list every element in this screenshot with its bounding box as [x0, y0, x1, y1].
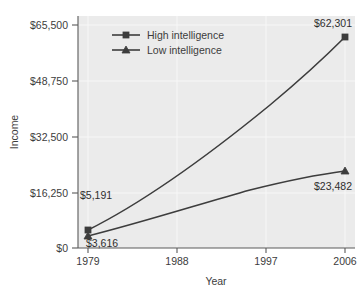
- y-tick-label-0: $0: [56, 242, 68, 254]
- x-axis-ticks: [88, 248, 345, 253]
- data-point-high-2006: [342, 34, 348, 40]
- chart-canvas: $65,500 $48,750 $32,500 $16,250 $0 1979 …: [0, 0, 362, 298]
- income-by-intelligence-line-chart: $65,500 $48,750 $32,500 $16,250 $0 1979 …: [0, 0, 362, 298]
- x-tick-label-2006: 2006: [333, 255, 357, 267]
- x-axis-title: Year: [205, 275, 227, 287]
- legend-label-high-intelligence: High intelligence: [147, 29, 224, 41]
- y-tick-label-16250: $16,250: [30, 187, 68, 199]
- annotation-high-1979: $5,191: [80, 189, 112, 201]
- legend-label-low-intelligence: Low intelligence: [147, 44, 222, 56]
- x-tick-label-1979: 1979: [76, 255, 100, 267]
- annotation-low-1979: $3,616: [86, 237, 118, 249]
- x-tick-label-1997: 1997: [254, 255, 278, 267]
- y-tick-label-48750: $48,750: [30, 75, 68, 87]
- annotation-low-2006: $23,482: [314, 180, 352, 192]
- square-marker-icon: [123, 32, 129, 38]
- y-tick-label-65500: $65,500: [30, 19, 68, 31]
- x-tick-label-1988: 1988: [165, 255, 189, 267]
- annotation-high-2006: $62,301: [314, 17, 352, 29]
- y-tick-label-32500: $32,500: [30, 131, 68, 143]
- y-axis-ticks: [72, 25, 78, 248]
- y-axis-title: Income: [8, 115, 20, 150]
